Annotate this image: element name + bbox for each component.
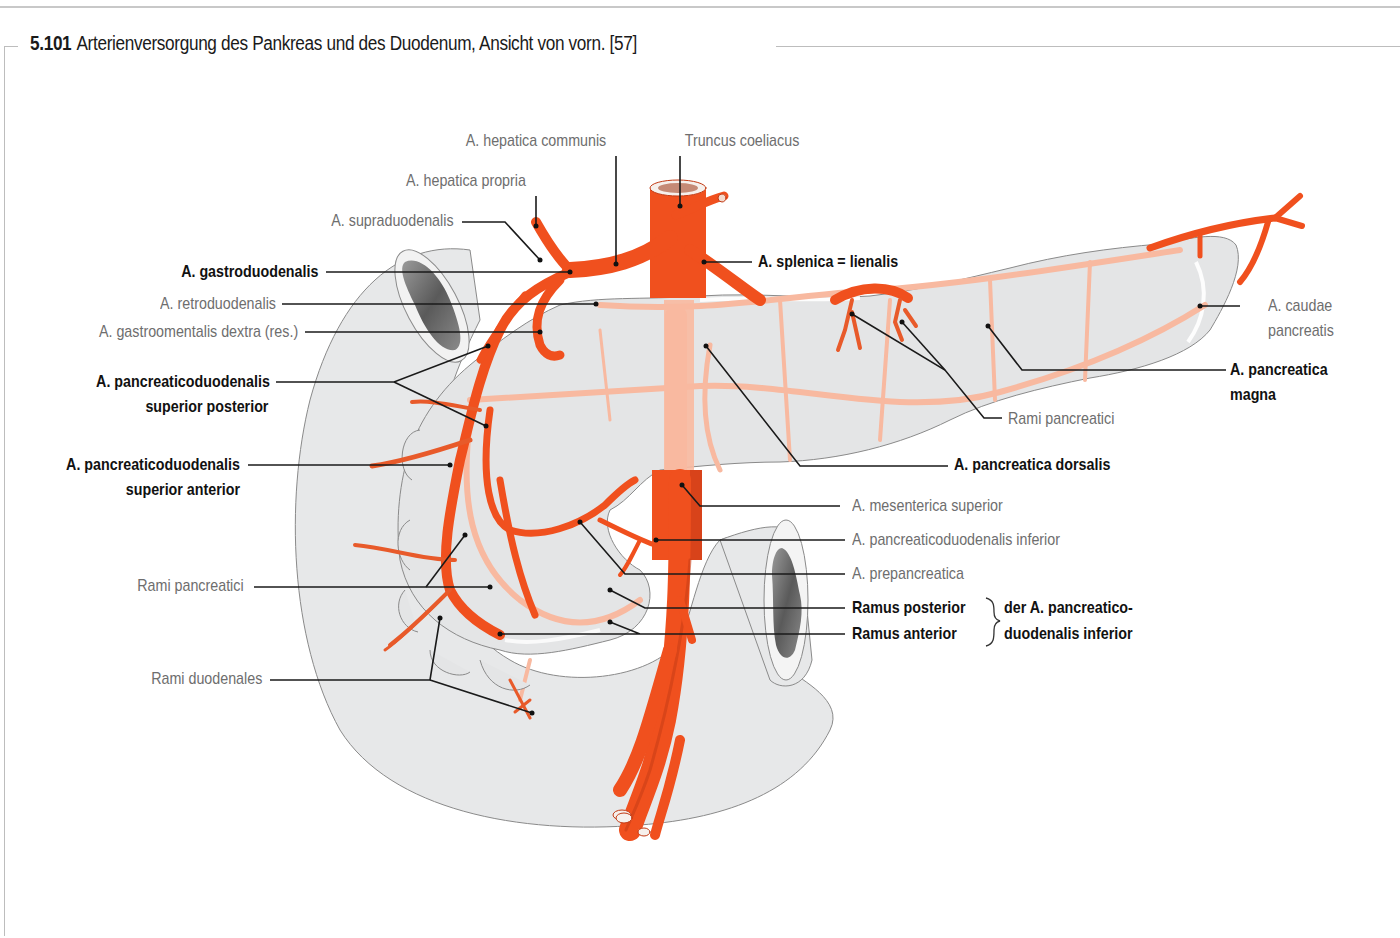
label-magna-2: magna <box>1230 383 1276 407</box>
label-mesenterica-superior: A. mesenterica superior <box>852 494 1003 518</box>
brace <box>986 598 1000 646</box>
label-hepatica-propria: A. hepatica propria <box>397 169 535 193</box>
label-gastroduodenalis: A. gastroduodenalis <box>181 260 318 284</box>
label-splenica: A. splenica = lienalis <box>758 250 898 274</box>
label-rami-pancreatici-left: Rami pancreatici <box>138 574 244 598</box>
label-hepatica-communis: A. hepatica communis <box>455 129 616 153</box>
label-ramus-anterior: Ramus anterior <box>852 622 957 646</box>
label-rami-duodenales: Rami duodenales <box>151 667 262 691</box>
label-ramus-posterior: Ramus posterior <box>852 596 965 620</box>
label-truncus-coeliacus: Truncus coeliacus <box>676 129 807 153</box>
label-retroduodenalis: A. retroduodenalis <box>160 292 276 316</box>
label-caudae-1: A. caudae <box>1268 294 1332 318</box>
label-pd-sup-ant-1: A. pancreaticoduodenalis <box>66 453 240 477</box>
label-duodenalis-inferior: duodenalis inferior <box>1004 622 1133 646</box>
label-supraduodenalis: A. supraduodenalis <box>332 209 454 233</box>
label-prepancreatica: A. prepancreatica <box>852 562 964 586</box>
label-magna-1: A. pancreatica <box>1230 358 1328 382</box>
label-pd-inferior: A. pancreaticoduodenalis inferior <box>852 528 1060 552</box>
label-pd-sup-post-1: A. pancreaticoduodenalis <box>96 370 270 394</box>
label-gastroomentalis: A. gastroomentalis dextra (res.) <box>99 320 298 344</box>
label-caudae-2: pancreatis <box>1268 319 1334 343</box>
label-der-pancreatico: der A. pancreatico- <box>1004 596 1133 620</box>
label-pancreatica-dorsalis: A. pancreatica dorsalis <box>954 453 1110 477</box>
label-pd-sup-post-2: superior posterior <box>145 395 268 419</box>
label-pd-sup-ant-2: superior anterior <box>126 478 240 502</box>
label-rami-pancreatici-right: Rami pancreatici <box>1008 407 1114 431</box>
